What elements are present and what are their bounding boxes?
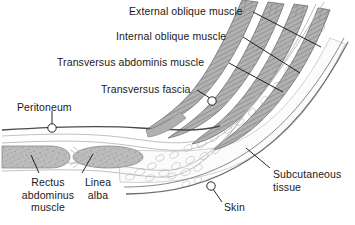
marker-transversus-fascia bbox=[208, 97, 216, 105]
label-internal-oblique-muscle: Internal oblique muscle bbox=[116, 30, 226, 43]
marker-skin bbox=[207, 182, 215, 190]
label-transversus-fascia: Transversus fascia bbox=[101, 83, 191, 96]
rectus-abdominus-muscle-group bbox=[2, 146, 143, 168]
anatomy-figure: External oblique muscle Internal oblique… bbox=[0, 0, 355, 225]
label-transversus-abdominis-muscle: Transversus abdominis muscle bbox=[57, 56, 204, 69]
label-skin: Skin bbox=[224, 201, 245, 214]
label-external-oblique-muscle: External oblique muscle bbox=[129, 5, 243, 18]
label-peritoneum: Peritoneum bbox=[17, 101, 72, 114]
label-linea-alba: Linea alba bbox=[70, 176, 126, 201]
marker-peritoneum bbox=[48, 124, 56, 132]
leader-skin bbox=[213, 189, 222, 202]
label-subcutaneous-tissue: Subcutaneous tissue bbox=[273, 168, 341, 193]
